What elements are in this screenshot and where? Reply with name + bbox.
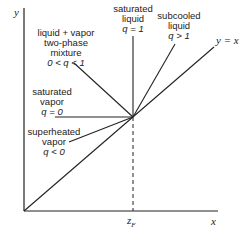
subcooled-liquid-line3: q > 1	[155, 31, 203, 41]
label-subcooled-liquid: subcooled liquid q > 1	[155, 11, 203, 41]
feed-composition-label: zF	[127, 214, 136, 229]
feed-subscript: F	[131, 221, 135, 229]
label-saturated-vapor: saturated vapor q = 0	[30, 87, 74, 117]
q-line-two-phase	[74, 63, 133, 117]
superheated-vapor-line3: q < 0	[26, 147, 82, 157]
label-saturated-liquid: saturated liquid q = 1	[108, 4, 158, 34]
y-axis-label: y	[14, 6, 19, 18]
diagonal-label: y = x	[216, 35, 239, 45]
label-superheated-vapor: superheated vapor q < 0	[26, 127, 82, 157]
two-phase-line4: 0 < q < 1	[36, 58, 96, 68]
saturated-vapor-line3: q = 0	[30, 107, 74, 117]
label-two-phase: liquid + vapor two-phase mixture 0 < q <…	[36, 28, 96, 68]
q-line-subcooled-liquid	[133, 44, 175, 117]
saturated-liquid-line3: q = 1	[108, 24, 158, 34]
q-line-diagram: y x zF y = x liquid + vapor two-phase mi…	[0, 0, 251, 236]
x-axis-label: x	[211, 215, 216, 227]
